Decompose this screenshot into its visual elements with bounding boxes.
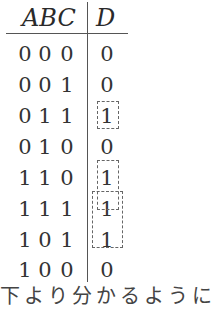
cell-a: 0	[18, 42, 32, 66]
footer-text-clipped: 下より分かるように	[0, 280, 216, 309]
grouping-box-rows6-7	[92, 191, 123, 248]
header-output: D	[96, 4, 115, 32]
cell-a: 0	[18, 73, 32, 97]
cell-d: 0	[100, 42, 114, 66]
cell-b: 1	[38, 104, 52, 128]
table-row: 1 1 1 1	[0, 197, 163, 229]
cell-c: 0	[60, 166, 74, 190]
cell-c: 1	[60, 73, 74, 97]
cell-d: 0	[100, 258, 114, 282]
table-row: 0 1 0 0	[0, 135, 163, 167]
cell-c: 1	[60, 197, 74, 221]
table-row: 0 0 1 0	[0, 73, 163, 105]
cell-c: 0	[60, 258, 74, 282]
header-divider	[6, 33, 128, 34]
cell-c: 1	[60, 228, 74, 252]
cell-a: 1	[18, 197, 32, 221]
cell-a: 0	[18, 104, 32, 128]
cell-b: 1	[38, 166, 52, 190]
cell-c: 1	[60, 104, 74, 128]
cell-a: 1	[18, 228, 32, 252]
table-row: 0 0 0 0	[0, 42, 163, 74]
cell-b: 0	[38, 73, 52, 97]
cell-b: 1	[38, 197, 52, 221]
cell-b: 0	[38, 228, 52, 252]
header-inputs: ABC	[22, 4, 76, 32]
cell-a: 1	[18, 166, 32, 190]
cell-c: 0	[60, 42, 74, 66]
cell-b: 0	[38, 258, 52, 282]
cell-b: 1	[38, 135, 52, 159]
cell-c: 0	[60, 135, 74, 159]
cell-a: 1	[18, 258, 32, 282]
cell-a: 0	[18, 135, 32, 159]
table-row: 0 1 1 1	[0, 104, 163, 136]
grouping-box-row3	[97, 101, 119, 129]
table-row: 1 1 0 1	[0, 166, 163, 198]
cell-d: 0	[100, 135, 114, 159]
cell-d: 0	[100, 73, 114, 97]
table-row: 1 0 1 1	[0, 228, 163, 260]
cell-b: 0	[38, 42, 52, 66]
